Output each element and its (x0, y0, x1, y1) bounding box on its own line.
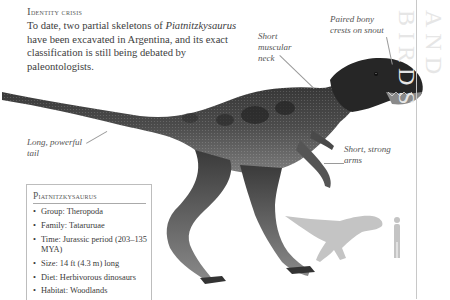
fact-item-time: Time: Jurassic period (203–135 MYA) (33, 235, 147, 256)
fact-item-group: Group: Theropoda (33, 207, 147, 218)
fact-item-size: Size: 14 ft (4.3 m) long (33, 259, 147, 270)
dinosaur-silhouette (285, 216, 383, 262)
dinosaur-arms (296, 130, 334, 188)
scale-silhouette (285, 216, 400, 262)
intro-heading: Identity crisis (27, 6, 237, 18)
leader-line-arms (324, 163, 344, 164)
callout-tail: Long, powerful tail (27, 137, 87, 159)
fact-box-title: Piatnitzkysaurus (33, 191, 146, 204)
fact-item-family: Family: Tataruruae (33, 221, 147, 232)
fact-list: Group: Theropoda Family: Tataruruae Time… (27, 207, 151, 297)
dinosaur-left-leg (167, 150, 232, 284)
fact-item-diet: Diet: Herbivorous dinosaurs (33, 273, 147, 284)
intro-body-prefix: To date, two partial skeletons of (27, 20, 165, 31)
callout-arms: Short, strong arms (344, 144, 394, 166)
intro-section: Identity crisis To date, two partial ske… (27, 6, 237, 73)
intro-body: To date, two partial skeletons of Piatni… (27, 19, 237, 73)
fact-box: Piatnitzkysaurus Group: Theropoda Family… (26, 184, 152, 300)
callout-crests: Paired bony crests on snout (330, 14, 390, 36)
human-silhouette (394, 217, 400, 258)
leader-line-tail (86, 131, 107, 144)
fact-item-habitat: Habitat: Woodlands (33, 286, 147, 297)
dinosaur-right-leg (240, 165, 315, 276)
intro-body-suffix: have been excavated in Argentina, and it… (27, 34, 228, 72)
running-section-title: and birds (421, 10, 447, 190)
leader-line-crests (386, 37, 393, 65)
intro-body-species: Piatnitzkysaurus (165, 20, 236, 31)
